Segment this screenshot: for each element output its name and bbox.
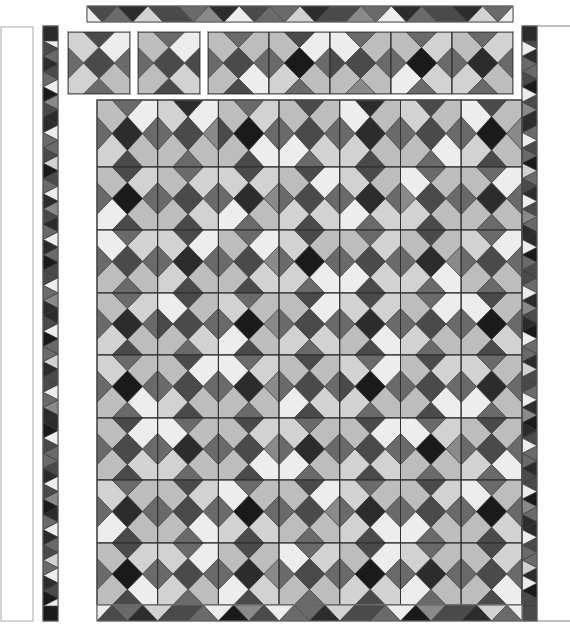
main-quilt-grid: [97, 100, 522, 605]
quilt-block: [218, 355, 279, 418]
bottom-border-strip: [97, 605, 522, 621]
quilt-block: [340, 293, 401, 355]
quilt-block: [401, 293, 462, 355]
quilt-block: [401, 100, 462, 167]
quilt-block: [138, 32, 200, 94]
quilt-block: [97, 230, 158, 293]
quilt-block: [461, 543, 522, 605]
quilt-block: [158, 418, 219, 480]
quilt-block: [158, 100, 219, 167]
strip-cap-top: [522, 26, 537, 41]
quilt-block: [218, 293, 279, 355]
quilt-block: [68, 32, 130, 94]
quilt-block: [340, 167, 401, 230]
quilt-block: [461, 100, 522, 167]
quilt-block: [158, 543, 219, 605]
quilt-block: [340, 543, 401, 605]
quilt-block: [401, 167, 462, 230]
quilt-block: [269, 32, 330, 94]
quilt-block: [461, 480, 522, 543]
quilt-block: [158, 355, 219, 418]
quilt-block: [340, 355, 401, 418]
quilt-block: [279, 167, 340, 230]
quilt-block: [97, 480, 158, 543]
strip-cap-bottom: [43, 606, 58, 621]
quilt-block: [452, 32, 513, 94]
quilt-block: [208, 32, 269, 94]
top-single-blocks: [68, 32, 201, 95]
quilt-block: [218, 543, 279, 605]
quilt-block: [97, 418, 158, 480]
quilt-block: [401, 230, 462, 293]
quilt-block: [401, 480, 462, 543]
quilt-block: [340, 480, 401, 543]
quilt-block: [218, 100, 279, 167]
quilt-block: [340, 230, 401, 293]
quilt-block: [401, 543, 462, 605]
quilt-block: [218, 230, 279, 293]
quilt-block: [461, 293, 522, 355]
top-block-row-strip: [208, 32, 514, 95]
quilt-block: [461, 355, 522, 418]
blank-panel-rect: [1, 27, 33, 621]
quilt-block: [158, 167, 219, 230]
quilt-block: [461, 418, 522, 480]
quilt-block: [97, 543, 158, 605]
quilt-block: [401, 418, 462, 480]
quilt-block: [158, 230, 219, 293]
quilt-block: [97, 355, 158, 418]
quilt-block: [340, 100, 401, 167]
quilt-block: [279, 355, 340, 418]
quilt-block: [330, 32, 391, 94]
quilt-block: [279, 100, 340, 167]
quilt-block: [461, 230, 522, 293]
quilt-block: [97, 167, 158, 230]
quilt-block: [158, 480, 219, 543]
quilt-block: [279, 418, 340, 480]
quilt-block: [218, 418, 279, 480]
strip-cap-bottom: [522, 606, 537, 621]
quilt-block: [279, 480, 340, 543]
quilt-block: [279, 230, 340, 293]
quilt-block: [158, 293, 219, 355]
quilt-block: [279, 293, 340, 355]
strip-cap-top: [43, 26, 58, 41]
quilt-block: [97, 100, 158, 167]
top-border-strip: [87, 6, 513, 22]
left-blank-panel: [1, 27, 33, 621]
quilt-block: [279, 543, 340, 605]
quilt-diagram: [0, 0, 570, 628]
quilt-block: [391, 32, 452, 94]
frame-lines: [537, 26, 570, 621]
quilt-block: [340, 418, 401, 480]
quilt-block: [218, 480, 279, 543]
right-border-strip: [522, 26, 537, 621]
quilt-block: [97, 293, 158, 355]
left-border-strip: [43, 26, 58, 621]
quilt-block: [218, 167, 279, 230]
quilt-block: [461, 167, 522, 230]
quilt-block: [401, 355, 462, 418]
